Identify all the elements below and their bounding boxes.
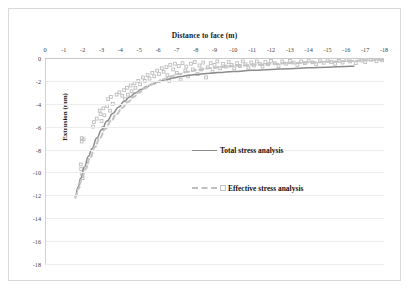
x-tick-label: -14: [305, 46, 313, 53]
x-tick-label: -15: [323, 46, 331, 53]
y-tick-label: -8: [19, 146, 41, 153]
x-axis-line: [45, 58, 384, 59]
scatter-point: [130, 90, 133, 93]
scatter-point: [209, 62, 212, 65]
x-tick-label: -1: [61, 46, 66, 53]
scatter-point: [156, 69, 159, 72]
scatter-point: [129, 84, 132, 87]
legend-label-effective-stress: Effective stress analysis: [228, 184, 303, 193]
x-tick-label: -17: [361, 46, 369, 53]
scatter-point: [82, 138, 85, 141]
legend-marker-icon: [220, 185, 226, 191]
scatter-point: [99, 113, 102, 116]
scatter-point: [93, 121, 96, 124]
scatter-point: [270, 59, 273, 62]
scatter-point: [95, 117, 98, 120]
scatter-point: [151, 71, 154, 74]
y-tick-label: 0: [19, 55, 41, 62]
x-tick-label: -5: [137, 46, 142, 53]
x-tick-label: -6: [155, 46, 160, 53]
scatter-point: [148, 77, 151, 80]
y-tick-label: -2: [19, 77, 41, 84]
legend-solid-line-icon: [192, 150, 217, 151]
scatter-point: [198, 64, 201, 67]
y-tick-label: -16: [19, 238, 41, 245]
x-tick-label: -10: [229, 46, 237, 53]
scatter-point: [193, 61, 196, 64]
scatter-point: [133, 82, 136, 85]
x-tick-label: -9: [212, 46, 217, 53]
scatter-point: [174, 62, 177, 65]
scatter-point: [102, 107, 105, 110]
scatter-point: [100, 120, 103, 123]
scatter-point: [288, 59, 291, 62]
scatter-point: [98, 109, 101, 112]
x-tick-label: -7: [174, 46, 179, 53]
scatter-point: [202, 61, 205, 64]
scatter-point: [126, 93, 129, 96]
scatter-point: [158, 73, 161, 76]
scatter-point: [160, 67, 163, 70]
scatter-point: [277, 65, 280, 68]
scatter-point: [134, 86, 137, 89]
y-tick-label: -4: [19, 100, 41, 107]
scatter-point: [181, 62, 184, 65]
scatter-point: [109, 109, 112, 112]
scatter-point: [250, 61, 253, 64]
x-tick-label: -11: [248, 46, 256, 53]
chart-legend: Total stress analysis Effective stress a…: [192, 143, 303, 219]
scatter-point: [169, 63, 172, 66]
scatter-point: [185, 65, 188, 68]
scatter-point: [177, 65, 180, 68]
scatter-point: [79, 163, 82, 166]
x-tick-label: -16: [342, 46, 350, 53]
scatter-point: [222, 62, 225, 65]
scatter-point: [233, 67, 236, 70]
scatter-point: [118, 91, 121, 94]
y-tick-label: -18: [19, 261, 41, 268]
scatter-point: [166, 74, 169, 77]
scatter-point: [213, 63, 216, 66]
scatter-point: [110, 96, 113, 99]
x-tick-label: -13: [286, 46, 294, 53]
legend-dashed-line-icon: [192, 187, 217, 189]
x-tick-label: -2: [80, 46, 85, 53]
gridline-horizontal: [45, 241, 384, 242]
scatter-point: [103, 114, 106, 117]
scatter-point: [80, 168, 83, 171]
scatter-point: [165, 66, 168, 69]
x-tick-label: -4: [118, 46, 123, 53]
gridline-horizontal: [45, 264, 384, 265]
x-tick-label: -3: [99, 46, 104, 53]
x-tick-label: 0: [43, 46, 46, 53]
scatter-point: [153, 75, 156, 78]
scatter-point: [236, 62, 239, 65]
scatter-point: [247, 66, 250, 69]
scatter-point: [241, 60, 244, 63]
scatter-point: [142, 76, 145, 79]
chart-frame: Distance to face (m) Extrusion (mm) 0-1-…: [8, 8, 401, 281]
scatter-point: [126, 86, 129, 89]
y-tick-label: -12: [19, 192, 41, 199]
gridline-horizontal: [45, 104, 384, 105]
y-axis-line: [45, 58, 46, 264]
scatter-point: [261, 65, 264, 68]
scatter-point: [354, 62, 357, 65]
x-tick-label: -12: [267, 46, 275, 53]
chart-canvas: Distance to face (m) Extrusion (mm) 0-1-…: [9, 9, 400, 280]
x-tick-label: -18: [380, 46, 388, 53]
legend-label-total-stress: Total stress analysis: [220, 146, 283, 155]
gridline-horizontal: [45, 81, 384, 82]
legend-item-effective-stress: Effective stress analysis: [192, 181, 303, 195]
scatter-point: [172, 68, 175, 71]
scatter-point: [146, 74, 149, 77]
scatter-point: [205, 76, 208, 79]
scatter-point: [227, 61, 230, 64]
legend-item-total-stress: Total stress analysis: [192, 143, 303, 157]
scatter-point: [216, 60, 219, 63]
scatter-point: [139, 83, 142, 86]
scatter-point: [334, 62, 337, 65]
chart-title: Distance to face (m): [9, 31, 400, 40]
y-tick-label: -10: [19, 169, 41, 176]
x-tick-label: -8: [193, 46, 198, 53]
